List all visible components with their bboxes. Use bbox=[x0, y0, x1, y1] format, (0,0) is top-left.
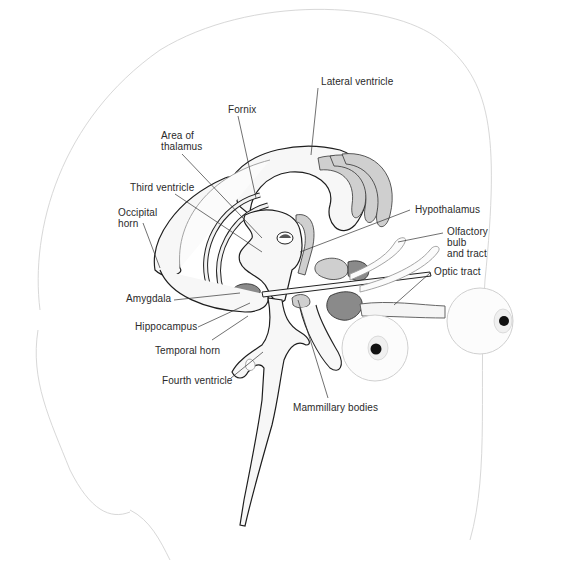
label-fourth-ventricle: Fourth ventricle bbox=[162, 375, 233, 386]
pupil-right bbox=[499, 316, 509, 326]
neck-outline bbox=[130, 510, 170, 560]
label-olfactory-bulb: Olfactory bulb and tract bbox=[447, 226, 488, 259]
mammillary-bodies-shape bbox=[292, 295, 310, 308]
label-third-ventricle: Third ventricle bbox=[130, 182, 194, 193]
label-mammillary-bodies: Mammillary bodies bbox=[293, 402, 378, 413]
hypothalamus-shape bbox=[315, 258, 348, 279]
label-temporal-horn: Temporal horn bbox=[155, 345, 220, 356]
ventricular-system-diagram bbox=[0, 0, 563, 574]
label-hypothalamus: Hypothalamus bbox=[415, 204, 480, 215]
label-area-of-thalamus: Area of thalamus bbox=[161, 130, 202, 152]
leader-line-lateral-ventricle bbox=[311, 88, 318, 155]
leader-line-olfactory-bulb bbox=[398, 233, 443, 242]
leader-line-temporal-horn bbox=[212, 316, 248, 340]
label-occipital-horn: Occipital horn bbox=[118, 207, 157, 229]
optic-chiasm bbox=[327, 292, 362, 321]
label-optic-tract: Optic tract bbox=[434, 266, 481, 277]
label-hippocampus: Hippocampus bbox=[135, 321, 197, 332]
label-lateral-ventricle: Lateral ventricle bbox=[321, 76, 393, 87]
label-fornix: Fornix bbox=[228, 104, 256, 115]
pupil-left bbox=[371, 344, 382, 355]
label-amygdala: Amygdala bbox=[126, 293, 171, 304]
jaw-outline bbox=[36, 330, 130, 515]
